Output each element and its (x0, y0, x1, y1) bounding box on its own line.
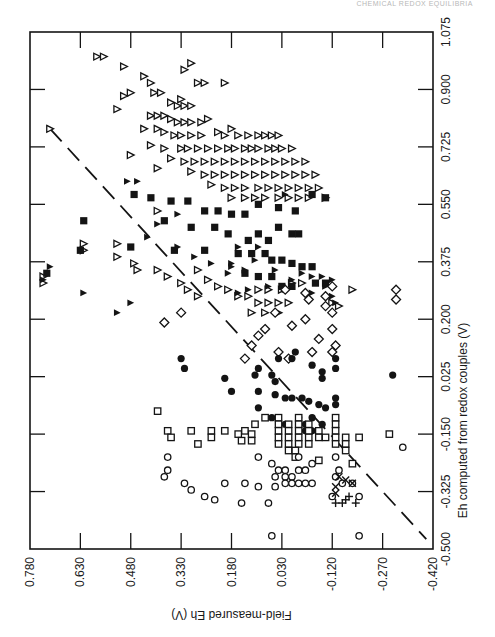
open-square-point (322, 434, 328, 440)
open-square-point (306, 441, 312, 447)
open-triangle-point (231, 145, 238, 152)
filled-square-point (275, 224, 282, 231)
open-diamond-point (314, 334, 323, 343)
filled-triangle-point (191, 253, 198, 260)
open-triangle-point (265, 145, 272, 152)
filled-circle-point (288, 394, 295, 401)
open-square-point (222, 428, 228, 434)
open-triangle-point (265, 299, 272, 306)
open-diamond-point (254, 331, 263, 340)
filled-square-point (255, 230, 262, 237)
open-square-point (208, 434, 214, 440)
filled-circle-point (268, 414, 275, 421)
open-triangle-point (221, 79, 228, 86)
filled-circle-point (178, 355, 185, 362)
open-triangle-point (289, 145, 296, 152)
open-circle-point (289, 480, 295, 486)
computed-eh-tick-label: -0.150 (439, 417, 453, 451)
open-circle-point (295, 467, 301, 473)
filled-square-point (268, 257, 275, 264)
filled-square-point (312, 280, 319, 287)
open-square-point (168, 434, 174, 440)
open-triangle-point (168, 99, 175, 106)
filled-triangle-point (299, 270, 306, 277)
open-triangle-point (154, 125, 161, 132)
open-triangle-point (292, 158, 299, 165)
open-triangle-point (171, 132, 178, 139)
open-triangle-point (131, 260, 138, 267)
open-triangle-point (272, 145, 279, 152)
filled-triangle-point (319, 273, 326, 280)
open-circle-point (282, 474, 288, 480)
open-square-point (316, 457, 322, 463)
open-triangle-point (275, 299, 282, 306)
open-square-point (275, 441, 281, 447)
filled-square-point (211, 224, 218, 231)
open-triangle-point (184, 286, 191, 293)
open-triangle-point (225, 286, 232, 293)
computed-eh-tick-label: 1.075 (439, 17, 453, 47)
filled-circle-point (221, 375, 228, 382)
open-square-point (285, 441, 291, 447)
open-circle-point (222, 480, 228, 486)
open-triangle-point (80, 240, 87, 247)
open-triangle-point (262, 309, 269, 316)
reference-dashed-line (50, 129, 426, 539)
open-circle-point (181, 480, 187, 486)
open-triangle-point (231, 171, 238, 178)
filled-triangle-point (255, 244, 262, 251)
open-triangle-point (268, 132, 275, 139)
filled-triangle-point (134, 178, 141, 185)
open-diamond-point (287, 321, 296, 330)
filled-circle-point (332, 401, 339, 408)
filled-square-point (292, 207, 299, 214)
open-triangle-point (285, 299, 292, 306)
open-triangle-point (205, 116, 212, 123)
filled-triangle-point (47, 263, 54, 270)
computed-eh-axis-title: Eh computed from redox couples (V) (456, 323, 470, 518)
open-triangle-point (178, 280, 185, 287)
computed-eh-tick-label: -0.325 (439, 474, 453, 508)
filled-triangle-point (309, 273, 316, 280)
open-circle-point (188, 487, 194, 493)
filled-square-point (161, 217, 168, 224)
filled-square-point (80, 217, 87, 224)
open-triangle-point (188, 119, 195, 126)
open-triangle-point (285, 185, 292, 192)
filled-square-point (298, 263, 305, 270)
filled-circle-point (255, 388, 262, 395)
open-circle-point (272, 474, 278, 480)
open-square-point (188, 428, 194, 434)
filled-square-point (261, 250, 268, 257)
open-triangle-point (195, 145, 202, 152)
filled-circle-point (332, 355, 339, 362)
open-triangle-point (255, 299, 262, 306)
open-square-point (295, 414, 301, 420)
filled-square-point (265, 237, 272, 244)
open-triangle-point (255, 185, 262, 192)
open-triangle-point (208, 181, 215, 188)
open-triangle-point (154, 267, 161, 274)
field-eh-tick-label: -0.120 (325, 557, 339, 591)
open-square-point (285, 421, 291, 427)
open-triangle-point (148, 79, 155, 86)
filled-square-point (309, 191, 316, 198)
open-triangle-point (275, 185, 282, 192)
field-eh-tick-label: -0.420 (426, 557, 440, 591)
open-triangle-point (215, 129, 222, 136)
open-triangle-point (114, 253, 121, 260)
filled-square-point (201, 207, 208, 214)
open-circle-point (255, 454, 261, 460)
filled-circle-point (255, 404, 262, 411)
open-triangle-point (221, 185, 228, 192)
open-square-point (275, 414, 281, 420)
filled-circle-point (251, 371, 258, 378)
open-triangle-point (191, 158, 198, 165)
filled-circle-point (275, 355, 282, 362)
open-triangle-point (242, 158, 249, 165)
filled-circle-point (288, 355, 295, 362)
open-triangle-point (215, 283, 222, 290)
open-triangle-point (201, 171, 208, 178)
open-triangle-point (225, 145, 232, 152)
open-square-point (316, 434, 322, 440)
